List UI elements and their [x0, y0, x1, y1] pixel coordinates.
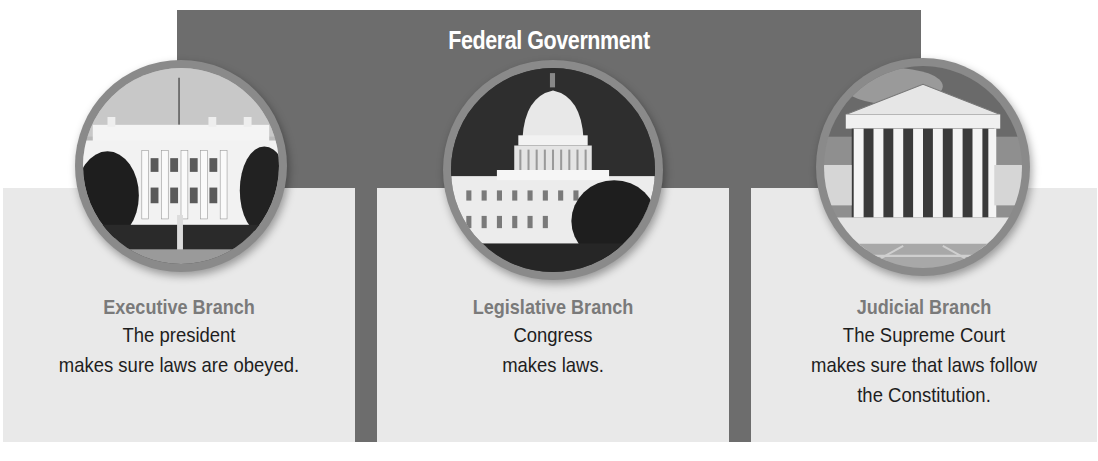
supreme-court-image	[816, 58, 1030, 276]
branch-description-line: makes sure laws are obeyed.	[24, 350, 334, 380]
capitol-building-icon	[451, 68, 655, 272]
branch-title: Legislative Branch	[402, 294, 705, 320]
white-house-icon	[83, 68, 279, 264]
branch-description-line: Congress	[398, 320, 708, 350]
judicial-branch-text: Judicial Branch The Supreme Court makes …	[751, 294, 1097, 410]
branch-description-line: makes sure that laws follow	[772, 350, 1076, 380]
legislative-branch-text: Legislative Branch Congress makes laws.	[377, 294, 729, 380]
executive-branch-text: Executive Branch The president makes sur…	[3, 294, 355, 380]
supreme-court-icon	[824, 66, 1022, 268]
connector-stem-1	[355, 186, 377, 442]
capitol-building-image	[443, 60, 663, 280]
branch-title: Executive Branch	[28, 294, 331, 320]
branch-description-line: the Constitution.	[772, 380, 1076, 410]
branch-description-line: The Supreme Court	[772, 320, 1076, 350]
branch-description-line: makes laws.	[398, 350, 708, 380]
connector-stem-2	[729, 186, 751, 442]
branch-title: Judicial Branch	[775, 294, 1073, 320]
branch-description-line: The president	[24, 320, 334, 350]
white-house-image	[75, 60, 287, 272]
banner-title: Federal Government	[229, 26, 869, 55]
